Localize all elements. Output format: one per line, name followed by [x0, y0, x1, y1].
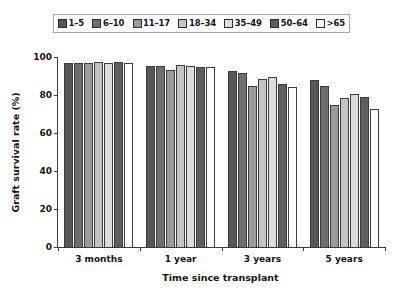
bar[interactable] [238, 73, 247, 247]
bar[interactable] [166, 70, 175, 247]
x-axis-tick [58, 247, 59, 251]
bar[interactable] [288, 87, 297, 247]
legend-swatch-icon [178, 19, 187, 28]
y-axis-tick-label: 60 [39, 128, 52, 138]
bar-groups: 3 months1 year3 years5 years [58, 57, 385, 247]
bar[interactable] [146, 66, 155, 247]
legend-item[interactable]: 1–5 [58, 19, 84, 28]
y-axis-title-label: Graft survival rate (%) [10, 92, 21, 212]
bar[interactable] [176, 65, 185, 247]
bar[interactable] [258, 79, 267, 247]
bar[interactable] [104, 63, 113, 247]
legend-swatch-icon [224, 19, 233, 28]
bar[interactable] [350, 94, 359, 247]
legend-swatch-icon [133, 19, 142, 28]
bar[interactable] [228, 71, 237, 247]
bar[interactable] [310, 80, 319, 247]
legend-item-label: 11–17 [143, 19, 170, 28]
bar[interactable] [360, 97, 369, 247]
bar[interactable] [114, 62, 123, 247]
bar-group: 5 years [303, 57, 385, 247]
x-axis-title: Time since transplant [57, 272, 384, 283]
legend-swatch-icon [270, 19, 279, 28]
x-axis-tick-label: 3 years [244, 254, 281, 264]
legend-item-label: >65 [327, 19, 345, 28]
legend-swatch-icon [316, 19, 325, 28]
bar[interactable] [64, 63, 73, 247]
y-axis-tick-label: 80 [39, 90, 52, 100]
legend-item-label: 35–49 [235, 19, 262, 28]
legend-item-label: 6–10 [103, 19, 124, 28]
bar[interactable] [74, 63, 83, 247]
y-axis-tick-label: 20 [39, 204, 52, 214]
bar[interactable] [94, 62, 103, 247]
y-axis-tick-label: 40 [39, 166, 52, 176]
chart-legend: 1–56–1011–1718–3435–4950–64>65 [53, 14, 350, 33]
legend-item[interactable]: 6–10 [92, 19, 124, 28]
legend-item[interactable]: 18–34 [178, 19, 215, 28]
bar[interactable] [330, 105, 339, 247]
bar[interactable] [370, 109, 379, 247]
bar-group: 1 year [140, 57, 222, 247]
x-axis-tick-label: 5 years [326, 254, 363, 264]
bar-group: 3 years [222, 57, 304, 247]
x-axis-tick-label: 3 months [75, 254, 122, 264]
plot-area: 020406080100 3 months1 year3 years5 year… [57, 57, 385, 248]
bar-chart-figure: 1–56–1011–1718–3435–4950–64>65 Graft sur… [0, 0, 401, 299]
bar-group: 3 months [58, 57, 140, 247]
bar[interactable] [268, 77, 277, 247]
legend-item[interactable]: 50–64 [270, 19, 307, 28]
legend-swatch-icon [92, 19, 101, 28]
legend-swatch-icon [58, 19, 67, 28]
legend-item[interactable]: 35–49 [224, 19, 261, 28]
bar[interactable] [278, 84, 287, 247]
y-axis-tick-label: 0 [46, 242, 52, 252]
bar[interactable] [186, 66, 195, 247]
legend-item-label: 18–34 [189, 19, 216, 28]
bar[interactable] [84, 63, 93, 247]
bar[interactable] [340, 98, 349, 247]
bar[interactable] [206, 67, 215, 247]
y-axis-tick-label: 100 [33, 52, 52, 62]
x-axis-tick [385, 247, 386, 251]
bar[interactable] [320, 86, 329, 247]
bar[interactable] [248, 86, 257, 247]
legend-item-label: 50–64 [281, 19, 308, 28]
legend-item[interactable]: >65 [316, 19, 345, 28]
x-axis-tick [140, 247, 141, 251]
bar[interactable] [196, 67, 205, 248]
bar[interactable] [124, 63, 133, 247]
bar[interactable] [156, 66, 165, 247]
x-axis-tick-label: 1 year [165, 254, 197, 264]
legend-item-label: 1–5 [69, 19, 84, 28]
y-axis-title: Graft survival rate (%) [8, 57, 22, 247]
x-axis-tick [303, 247, 304, 251]
x-axis-tick [222, 247, 223, 251]
legend-item[interactable]: 11–17 [133, 19, 170, 28]
